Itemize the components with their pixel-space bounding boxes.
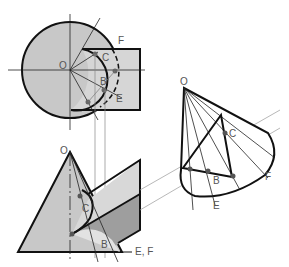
label-f-plan: F (118, 35, 124, 46)
point-1-aux (188, 167, 193, 172)
label-b-plan: B (100, 76, 107, 87)
point-b (102, 88, 107, 93)
point-low-elev (70, 232, 75, 237)
point-3-aux (231, 174, 236, 179)
label-c-elev: C (82, 203, 89, 214)
label-ef-elev: E, F (135, 246, 153, 257)
point-b-aux (206, 169, 211, 174)
auxiliary-view: O C B F E (180, 76, 275, 211)
label-c-aux: C (229, 128, 236, 139)
label-o-elev: O (60, 145, 68, 156)
label-e-plan: E (116, 93, 123, 104)
point-c-aux (223, 131, 228, 136)
label-e-aux: E (213, 200, 220, 211)
plan-view: O C B F E (8, 14, 145, 130)
label-o-aux: O (180, 76, 188, 87)
label-o-plan: O (59, 60, 67, 71)
point-c-elev (78, 194, 83, 199)
label-c-plan: C (102, 52, 109, 63)
label-b-elev: B (101, 239, 108, 250)
cone-aux (181, 88, 275, 197)
label-b-aux: B (213, 175, 220, 186)
label-f-aux: F (265, 171, 271, 182)
geometry-diagram: O C B F E O C B E, F (0, 0, 289, 267)
elevation-view: O C B E, F (18, 145, 153, 262)
